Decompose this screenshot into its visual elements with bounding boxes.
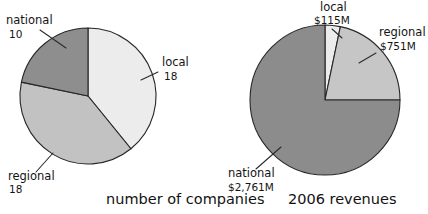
slice-label-number-of-companies-local: local xyxy=(162,55,189,69)
slice-label-2006-revenues-local: local xyxy=(320,0,347,14)
chart-caption-number-of-companies: number of companies xyxy=(106,191,265,207)
slice-value-number-of-companies-regional: 18 xyxy=(9,183,22,195)
slice-value-2006-revenues-regional: $751M xyxy=(380,40,416,52)
chart-number-of-companies: local18regional18national10number of com… xyxy=(6,13,265,207)
chart-2006-revenues: local$115Mregional$751Mnational$2,761M20… xyxy=(228,0,426,207)
slice-label-number-of-companies-regional: regional xyxy=(8,169,55,183)
slice-label-number-of-companies-national: national xyxy=(6,13,53,27)
slice-value-number-of-companies-local: 18 xyxy=(164,70,177,82)
figure-canvas: local18regional18national10number of com… xyxy=(0,0,428,214)
chart-caption-2006-revenues: 2006 revenues xyxy=(288,191,396,207)
slice-label-2006-revenues-national: national xyxy=(228,166,275,180)
slice-label-2006-revenues-regional: regional xyxy=(379,25,426,39)
slice-value-number-of-companies-national: 10 xyxy=(9,28,22,40)
slice-value-2006-revenues-national: $2,761M xyxy=(228,181,274,193)
pie-charts-figure: local18regional18national10number of com… xyxy=(0,0,428,214)
slice-value-2006-revenues-local: $115M xyxy=(314,14,350,26)
